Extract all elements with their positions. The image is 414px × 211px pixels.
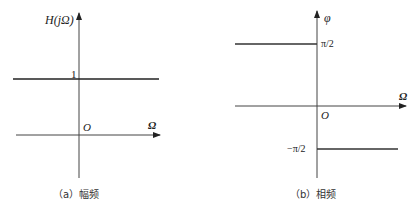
frequency-response-diagram bbox=[0, 0, 414, 211]
tick-label-neg-pi-half: −π/2 bbox=[287, 144, 305, 154]
tick-label-pi-half: π/2 bbox=[321, 39, 334, 49]
caption-a: （a）幅频 bbox=[53, 186, 99, 201]
magnitude-plot bbox=[13, 13, 160, 178]
y-axis-label-a: H(jΩ) bbox=[45, 14, 74, 26]
x-axis-label-b: Ω bbox=[399, 91, 407, 102]
phase-plot bbox=[235, 11, 406, 178]
y-axis-label-b: φ bbox=[324, 12, 331, 24]
origin-label-b: O bbox=[321, 110, 329, 121]
caption-b: （b）相频 bbox=[290, 186, 336, 201]
x-axis-label-a: Ω bbox=[148, 120, 156, 131]
tick-label-1: 1 bbox=[71, 69, 77, 80]
origin-label-a: O bbox=[83, 122, 91, 133]
